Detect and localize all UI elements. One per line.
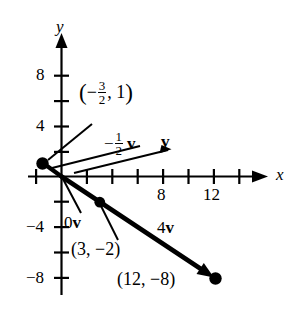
point-label-neg-three-halves-one: (−32, 1) bbox=[79, 79, 133, 108]
fraction-numerator: 3 bbox=[98, 79, 107, 92]
coordinate-plot bbox=[0, 0, 304, 313]
vector-label-v: v bbox=[161, 133, 170, 150]
x-tick-label-8: 8 bbox=[157, 186, 166, 203]
point-label-three-neg-two: (3, −2) bbox=[71, 240, 120, 258]
comma-one: , 1 bbox=[107, 82, 125, 102]
point-dot-neg1p5-1 bbox=[36, 157, 48, 169]
bold-v: v bbox=[166, 218, 175, 237]
close-paren: ) bbox=[125, 80, 133, 105]
y-tick-label-4: 4 bbox=[36, 117, 45, 134]
fraction-three-halves: 32 bbox=[98, 79, 107, 107]
bold-v: v bbox=[127, 134, 136, 153]
scalar-four: 4 bbox=[157, 218, 166, 237]
vector-label-four-v: 4v bbox=[157, 219, 174, 236]
minus-sign: − bbox=[87, 82, 97, 102]
fraction-denominator: 2 bbox=[98, 92, 107, 106]
vector-label-zero-v: 0v bbox=[64, 214, 81, 231]
open-paren: ( bbox=[79, 80, 87, 105]
vector-figure: y x 8 4 −4 −8 8 12 (−32, 1) −12v v 0v (3… bbox=[0, 0, 304, 313]
scalar-zero: 0 bbox=[64, 213, 73, 232]
fraction-denominator: 2 bbox=[115, 143, 124, 157]
point-label-twelve-neg-eight: (12, −8) bbox=[117, 270, 175, 288]
x-axis-arrowhead bbox=[252, 171, 268, 183]
point-dot-12-neg8 bbox=[209, 272, 221, 284]
y-axis-label: y bbox=[56, 18, 64, 35]
y-tick-label-neg8: −8 bbox=[26, 269, 44, 286]
x-axis-label: x bbox=[276, 166, 284, 183]
fraction-numerator: 1 bbox=[115, 130, 124, 143]
y-tick-label-8: 8 bbox=[36, 66, 45, 83]
y-tick-label-neg4: −4 bbox=[26, 218, 44, 235]
x-tick-label-12: 12 bbox=[203, 186, 220, 203]
fraction-one-half: 12 bbox=[115, 130, 124, 158]
point-neg-half-leader-line bbox=[48, 124, 92, 160]
bold-v: v bbox=[73, 213, 82, 232]
vector-label-neg-half-v: −12v bbox=[104, 131, 136, 159]
point-dot-3-neg2 bbox=[94, 197, 105, 208]
minus-sign: − bbox=[104, 134, 114, 153]
